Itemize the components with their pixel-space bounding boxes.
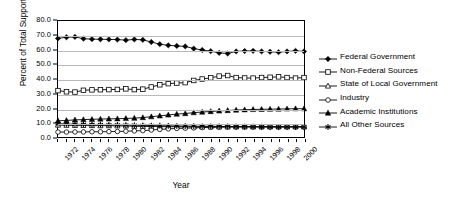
- x-axis-tick-mark: [279, 139, 280, 142]
- x-axis-tick-mark: [262, 139, 263, 142]
- chart-legend: Federal GovernmentNon-Federal SourcesSta…: [318, 50, 452, 132]
- x-axis-tick-mark: [177, 139, 178, 142]
- x-axis-tick-mark: [143, 139, 144, 142]
- x-axis-tick-label: 1992: [234, 145, 250, 161]
- gridline: [58, 95, 304, 96]
- y-axis-tick-label: 70.0: [36, 31, 51, 38]
- x-axis-labels: 1972197419761978198019821984198619881990…: [57, 139, 305, 179]
- legend-label: Academic Institutions: [338, 107, 418, 116]
- legend-label: Federal Government: [338, 52, 415, 61]
- x-axis-tick-label: 1998: [286, 145, 302, 161]
- filled-diamond-icon: [318, 51, 338, 63]
- x-axis-tick-mark: [219, 139, 220, 142]
- gridline: [58, 65, 304, 66]
- x-axis-tick-mark: [83, 139, 84, 142]
- y-axis-tick-label: 30.0: [36, 90, 51, 97]
- x-axis-tick-mark: [305, 139, 306, 142]
- x-axis-tick-label: 1986: [183, 145, 199, 161]
- open-triangle-icon: [318, 78, 338, 90]
- x-axis-tick-mark: [117, 139, 118, 142]
- y-axis-tick-label: 50.0: [36, 61, 51, 68]
- x-axis-tick-mark: [245, 139, 246, 142]
- legend-label: State of Local Government: [338, 79, 438, 88]
- x-axis-tick-mark: [91, 139, 92, 142]
- x-axis-tick-label: 1976: [97, 145, 113, 161]
- x-axis-tick-label: 1982: [149, 145, 165, 161]
- legend-item[interactable]: Academic Institutions: [318, 104, 452, 118]
- y-axis-tick-label: 20.0: [36, 105, 51, 112]
- x-axis-tick-label: 1974: [80, 145, 96, 161]
- filled-triangle-icon: [318, 105, 338, 117]
- x-axis-tick-mark: [134, 139, 135, 142]
- x-axis-tick-label: 2000: [303, 145, 319, 161]
- x-axis-tick-mark: [228, 139, 229, 142]
- x-axis-tick-mark: [211, 139, 212, 142]
- series-0: [55, 34, 306, 56]
- y-axis-tick-label: 40.0: [36, 75, 51, 82]
- legend-item[interactable]: Non-Federal Sources: [318, 64, 452, 78]
- x-axis-tick-mark: [202, 139, 203, 142]
- x-axis-tick-label: 1994: [251, 145, 267, 161]
- legend-item[interactable]: Federal Government: [318, 50, 452, 64]
- y-axis-labels: 0.010.020.030.040.050.060.070.080.0: [0, 20, 55, 138]
- gridline: [58, 124, 304, 125]
- legend-label: Non-Federal Sources: [338, 66, 418, 75]
- x-axis-tick-mark: [74, 139, 75, 142]
- gridline: [58, 51, 304, 52]
- x-axis-tick-mark: [185, 139, 186, 142]
- x-axis-tick-mark: [288, 139, 289, 142]
- x-axis-tick-mark: [151, 139, 152, 142]
- x-axis-tick-mark: [168, 139, 169, 142]
- y-axis-tick-label: 0.0: [40, 134, 51, 141]
- x-axis-tick-mark: [194, 139, 195, 142]
- open-circle-icon: [318, 92, 338, 104]
- y-axis-tick-label: 60.0: [36, 46, 51, 53]
- x-axis-tick-label: 1990: [217, 145, 233, 161]
- x-axis-tick-mark: [160, 139, 161, 142]
- legend-item[interactable]: State of Local Government: [318, 77, 452, 91]
- gridline: [58, 36, 304, 37]
- x-axis-tick-mark: [237, 139, 238, 142]
- x-axis-tick-label: 1996: [269, 145, 285, 161]
- x-axis-tick-label: 1980: [132, 145, 148, 161]
- legend-item[interactable]: All Other Sources: [318, 118, 452, 132]
- x-axis-tick-label: 1984: [166, 145, 182, 161]
- gridline: [58, 80, 304, 81]
- legend-label: Industry: [338, 93, 369, 102]
- asterisk-icon: [318, 119, 338, 131]
- x-axis-tick-label: 1972: [63, 145, 79, 161]
- x-axis-tick-mark: [108, 139, 109, 142]
- x-axis-tick-mark: [57, 139, 58, 142]
- plot-area: [57, 20, 305, 138]
- y-axis-tick-label: 10.0: [36, 120, 51, 127]
- x-axis-tick-mark: [66, 139, 67, 142]
- open-square-icon: [318, 64, 338, 76]
- x-axis-tick-mark: [254, 139, 255, 142]
- x-axis-tick-mark: [271, 139, 272, 142]
- x-axis-tick-mark: [125, 139, 126, 142]
- series-4: [55, 106, 306, 123]
- legend-item[interactable]: Industry: [318, 91, 452, 105]
- series-layer: [58, 21, 304, 137]
- series-1: [56, 73, 307, 94]
- legend-label: All Other Sources: [338, 120, 404, 129]
- x-axis-tick-mark: [296, 139, 297, 142]
- gridline: [58, 110, 304, 111]
- x-axis-tick-label: 1988: [200, 145, 216, 161]
- x-axis-tick-label: 1978: [115, 145, 131, 161]
- y-axis-tick-label: 80.0: [36, 16, 51, 23]
- x-axis-title: Year: [57, 181, 305, 190]
- chart-container: Percent of Total Support 0.010.020.030.0…: [0, 0, 453, 207]
- x-axis-tick-mark: [100, 139, 101, 142]
